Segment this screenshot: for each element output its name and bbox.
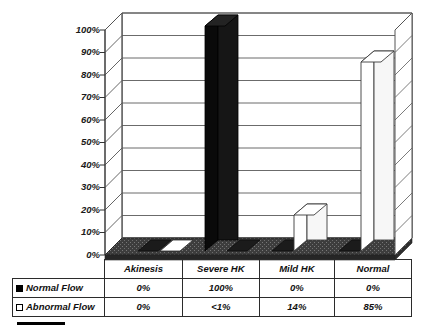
plot-right-wall [395,13,412,255]
cell-normal-flow-normal: 0% [334,279,411,298]
cell-abnormal-flow-mild-hk: 14% [259,298,334,317]
column-header-normal: Normal [334,260,411,279]
legend-label-abnormal-flow: Abnormal Flow [26,301,95,312]
y-tick-70: 70% [28,92,100,102]
cell-abnormal-flow-severe-hk: <1% [182,298,259,317]
y-axis-labels: 100% 90% 80% 70% 60% 50% 40% 30% 20% 10%… [20,0,100,260]
chart-figure: 100% 90% 80% 70% 60% 50% 40% 30% 20% 10%… [0,0,426,336]
bar-normal-abnormal-flow [361,51,394,251]
column-header-akinesis: Akinesis [104,260,182,279]
bar-severe-hk-normal-flow [205,15,238,251]
y-tick-50: 50% [28,137,100,147]
y-tick-40: 40% [28,160,100,170]
table-row: Abnormal Flow 0% <1% 14% 85% [13,298,412,317]
legend-item-abnormal-flow: Abnormal Flow [13,298,105,317]
plot-left-wall [105,13,122,255]
cell-normal-flow-akinesis: 0% [104,279,182,298]
y-tick-100: 100% [28,25,100,35]
column-header-severe-hk: Severe HK [182,260,259,279]
column-header-mild-hk: Mild HK [259,260,334,279]
y-tick-90: 90% [28,47,100,57]
hollow-square-icon [16,304,23,311]
cell-normal-flow-mild-hk: 0% [259,279,334,298]
legend-item-normal-flow: Normal Flow [13,279,105,298]
filled-square-icon [16,285,23,292]
y-tick-30: 30% [28,182,100,192]
cell-abnormal-flow-akinesis: 0% [104,298,182,317]
y-tick-10: 10% [28,227,100,237]
table-corner-cell [13,260,105,279]
scale-bar [17,322,65,325]
table-header-row: Akinesis Severe HK Mild HK Normal [13,260,412,279]
table-row: Normal Flow 0% 100% 0% 0% [13,279,412,298]
y-tick-60: 60% [28,115,100,125]
chart-data-table: Akinesis Severe HK Mild HK Normal Normal… [12,259,412,317]
legend-label-normal-flow: Normal Flow [26,282,83,293]
cell-normal-flow-severe-hk: 100% [182,279,259,298]
y-axis-ticks [100,30,105,255]
cell-abnormal-flow-normal: 85% [334,298,411,317]
y-tick-80: 80% [28,70,100,80]
y-tick-20: 20% [28,205,100,215]
